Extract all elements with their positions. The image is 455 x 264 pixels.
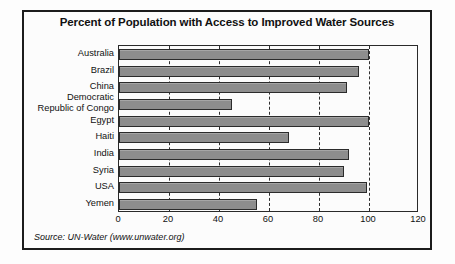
plot-area — [118, 45, 418, 212]
chart-title: Percent of Population with Access to Imp… — [22, 16, 432, 28]
bar-row — [119, 63, 417, 80]
bar — [119, 149, 349, 160]
y-axis-label: China — [18, 81, 114, 92]
bar — [119, 99, 232, 110]
bar-row — [119, 46, 417, 63]
y-axis-labels: AustraliaBrazilChinaDemocratic Republic … — [18, 45, 114, 212]
x-axis-tick-60: 60 — [263, 214, 273, 224]
bar-row — [119, 79, 417, 96]
chart-screenshot: Percent of Population with Access to Imp… — [0, 0, 455, 264]
bar-row — [119, 146, 417, 163]
x-axis-tick-100: 100 — [360, 214, 376, 224]
y-axis-label: Egypt — [18, 115, 114, 126]
x-axis-tick-20: 20 — [163, 214, 173, 224]
bar-row — [119, 113, 417, 130]
bar — [119, 132, 289, 143]
bar — [119, 199, 257, 210]
y-axis-label: USA — [18, 181, 114, 192]
y-axis-label: Syria — [18, 165, 114, 176]
bar-row — [119, 196, 417, 213]
bar — [119, 182, 367, 193]
bar-row — [119, 163, 417, 180]
bar-row — [119, 130, 417, 147]
x-axis-tick-0: 0 — [115, 214, 120, 224]
source-note: Source: UN-Water (www.unwater.org) — [34, 232, 185, 242]
bar — [119, 49, 369, 60]
bar — [119, 66, 359, 77]
y-axis-label: Brazil — [18, 65, 114, 76]
y-axis-label: Australia — [18, 48, 114, 59]
x-axis-tick-40: 40 — [213, 214, 223, 224]
bar — [119, 116, 369, 127]
bar-row — [119, 96, 417, 113]
bar-row — [119, 180, 417, 197]
x-axis-tick-120: 120 — [410, 214, 426, 224]
bar — [119, 166, 344, 177]
x-axis-tick-80: 80 — [313, 214, 323, 224]
y-axis-label: India — [18, 148, 114, 159]
bar — [119, 82, 347, 93]
y-axis-label: Haiti — [18, 131, 114, 142]
y-axis-label: Yemen — [18, 198, 114, 209]
y-axis-label: Democratic Republic of Congo — [18, 92, 114, 113]
